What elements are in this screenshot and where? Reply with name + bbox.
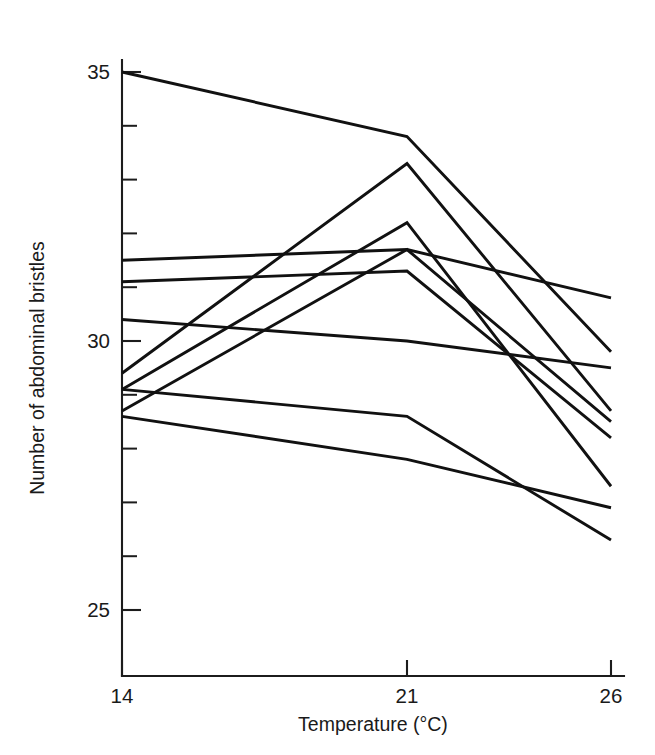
x-axis-title: Temperature (°C)	[298, 713, 448, 735]
y-tick-label: 35	[87, 60, 110, 83]
x-tick-label: 14	[111, 684, 134, 707]
y-tick-label: 30	[87, 329, 110, 352]
x-tick-label: 26	[600, 684, 623, 707]
y-tick-label: 25	[87, 598, 110, 621]
y-axis-title: Number of abdominal bristles	[26, 241, 48, 495]
chart-figure: 353025 142126 Temperature (°C) Number of…	[0, 0, 655, 755]
reaction-norm-line-chart: 353025 142126 Temperature (°C) Number of…	[0, 0, 655, 755]
x-tick-label: 21	[396, 684, 419, 707]
